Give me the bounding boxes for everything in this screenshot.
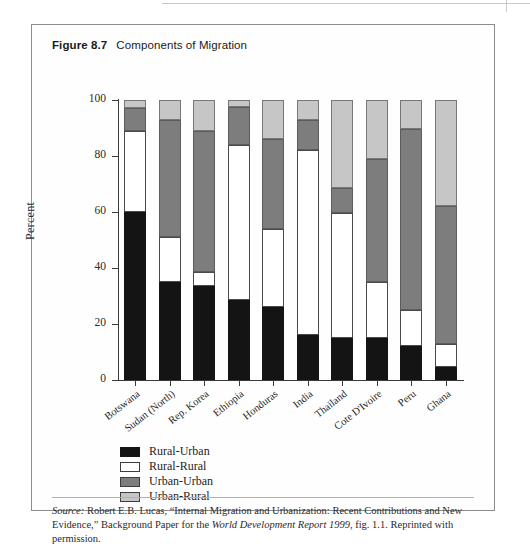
y-tick-label: 80 — [66, 148, 106, 160]
bar-segment-rural-rural — [193, 272, 215, 286]
y-tick-label: 0 — [66, 372, 106, 384]
bar-segment-rural-rural — [297, 150, 319, 335]
page-top-tick — [506, 0, 507, 12]
bar-segment-rural-rural — [124, 131, 146, 212]
bar-segment-urban-urban — [331, 188, 353, 213]
page-top-rule — [162, 3, 530, 4]
legend-swatch-rural-rural — [120, 462, 140, 472]
bar-segment-rural-rural — [331, 213, 353, 338]
bar-rep-korea[interactable] — [193, 100, 215, 380]
x-tick-mark — [446, 381, 447, 386]
bar-india[interactable] — [297, 100, 319, 380]
x-tick-mark — [308, 381, 309, 386]
bar-cote-d-ivoire[interactable] — [366, 100, 388, 380]
bar-segment-rural-urban — [435, 367, 457, 380]
figure-caption: Components of Migration — [116, 39, 247, 51]
bar-segment-rural-urban — [193, 286, 215, 380]
source-line2-pre: Background Paper for the — [101, 519, 212, 530]
legend-label: Urban-Urban — [149, 474, 213, 489]
y-tick-label: 20 — [66, 316, 106, 328]
bar-segment-rural-rural — [400, 310, 422, 346]
figure-title: Figure 8.7Components of Migration — [52, 39, 247, 51]
legend: Rural-UrbanRural-RuralUrban-UrbanUrban-R… — [120, 444, 213, 504]
bar-segment-urban-urban — [297, 120, 319, 151]
x-tick-mark — [342, 381, 343, 386]
legend-item[interactable]: Rural-Urban — [120, 444, 213, 459]
y-tick-label: 100 — [66, 92, 106, 104]
bar-segment-urban-rural — [331, 100, 353, 188]
bar-segment-urban-rural — [159, 100, 181, 120]
bar-ethiopia[interactable] — [228, 100, 250, 380]
source-note: Source: Robert E.B. Lucas, “Internal Mig… — [52, 504, 478, 546]
bar-segment-rural-rural — [366, 282, 388, 338]
x-tick-mark — [411, 381, 412, 386]
bar-segment-urban-rural — [297, 100, 319, 120]
bar-segment-rural-rural — [159, 237, 181, 282]
x-tick-mark — [239, 381, 240, 386]
bar-segment-rural-urban — [297, 335, 319, 380]
bar-segment-urban-rural — [228, 100, 250, 107]
bar-segment-urban-urban — [366, 159, 388, 282]
bar-segment-urban-rural — [400, 100, 422, 129]
bar-segment-urban-urban — [262, 139, 284, 229]
bar-segment-urban-urban — [159, 120, 181, 238]
source-report-title: World Development Report 1999 — [212, 519, 350, 530]
bar-segment-rural-rural — [262, 229, 284, 307]
legend-swatch-rural-urban — [120, 447, 140, 457]
bar-segment-urban-rural — [124, 100, 146, 108]
bar-segment-urban-urban — [228, 107, 250, 145]
x-tick-mark — [273, 381, 274, 386]
y-tick-label: 60 — [66, 204, 106, 216]
bar-segment-urban-urban — [124, 108, 146, 130]
bar-segment-rural-urban — [366, 338, 388, 380]
bar-sudan-north[interactable] — [159, 100, 181, 380]
bar-segment-rural-urban — [400, 346, 422, 380]
y-tick-label: 40 — [66, 260, 106, 272]
bar-peru[interactable] — [400, 100, 422, 380]
legend-item[interactable]: Rural-Rural — [120, 459, 213, 474]
bar-segment-urban-rural — [193, 100, 215, 131]
y-axis-title: Percent — [23, 202, 38, 240]
x-label-cote-d-ivoire: Cote D'Ivoire — [250, 388, 383, 495]
legend-label: Rural-Rural — [149, 459, 206, 474]
bar-segment-urban-urban — [400, 129, 422, 310]
bar-segment-rural-urban — [159, 282, 181, 380]
bar-segment-rural-urban — [124, 212, 146, 380]
bar-ghana[interactable] — [435, 100, 457, 380]
bar-segment-urban-rural — [366, 100, 388, 159]
source-divider — [52, 497, 474, 498]
bar-segment-rural-rural — [435, 344, 457, 368]
bar-segment-rural-rural — [228, 145, 250, 300]
y-tick-mark — [112, 380, 118, 381]
bar-segment-rural-urban — [262, 307, 284, 380]
bar-segment-urban-urban — [435, 206, 457, 343]
bar-segment-urban-urban — [193, 131, 215, 272]
bar-thailand[interactable] — [331, 100, 353, 380]
x-tick-mark — [377, 381, 378, 386]
bar-botswana[interactable] — [124, 100, 146, 380]
bar-segment-urban-rural — [262, 100, 284, 139]
x-tick-mark — [170, 381, 171, 386]
bar-segment-rural-urban — [228, 300, 250, 380]
figure-number: Figure 8.7 — [52, 39, 107, 51]
legend-label: Rural-Urban — [149, 444, 210, 459]
x-tick-mark — [204, 381, 205, 386]
figure-box: Figure 8.7Components of Migration Percen… — [31, 24, 495, 511]
legend-swatch-urban-urban — [120, 477, 140, 487]
x-label-ghana: Ghana — [319, 388, 452, 495]
bar-segment-urban-rural — [435, 100, 457, 206]
legend-item[interactable]: Urban-Urban — [120, 474, 213, 489]
plot-area — [118, 100, 463, 380]
bar-honduras[interactable] — [262, 100, 284, 380]
bar-segment-rural-urban — [331, 338, 353, 380]
x-tick-mark — [135, 381, 136, 386]
source-label: Source: — [52, 505, 84, 516]
